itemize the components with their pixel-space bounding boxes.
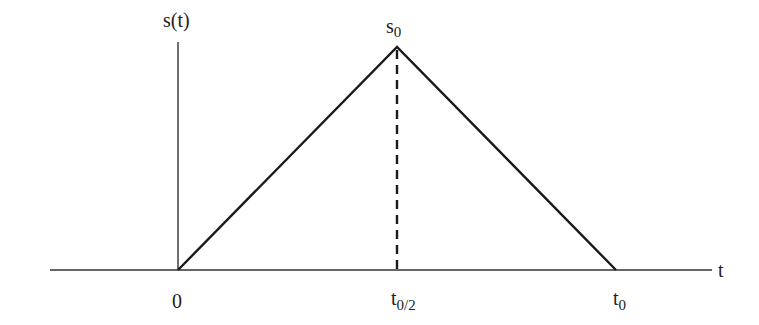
- x-axis-label: t: [718, 259, 724, 281]
- tick-label-period: t0: [613, 287, 626, 313]
- triangular-pulse-diagram: s(t) t s0 0 t0/2 t0: [0, 0, 759, 325]
- tick-label-half-period: t0/2: [391, 287, 416, 313]
- y-axis-label: s(t): [163, 9, 190, 32]
- peak-label: s0: [386, 15, 401, 40]
- tick-label-zero: 0: [172, 290, 182, 312]
